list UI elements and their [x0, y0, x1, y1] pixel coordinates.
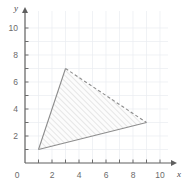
y-tick-label-2: 2: [13, 131, 18, 141]
y-tick-label-8: 8: [13, 50, 18, 60]
coordinate-plane-figure: 2 4 6 8 10 2 4 6 8 10 0 x y: [0, 0, 190, 190]
y-tick-label-6: 6: [13, 77, 18, 87]
y-axis-tick-labels: 2 4 6 8 10: [9, 23, 19, 141]
plot-svg: 2 4 6 8 10 2 4 6 8 10 0 x y: [0, 0, 190, 190]
x-tick-label-6: 6: [104, 170, 109, 180]
y-tick-label-10: 10: [9, 23, 19, 33]
x-axis-label: x: [176, 169, 181, 179]
y-axis-label: y: [13, 3, 18, 13]
x-tick-label-8: 8: [131, 170, 136, 180]
x-axis-tick-labels: 2 4 6 8 10: [50, 170, 165, 180]
x-tick-label-4: 4: [77, 170, 82, 180]
origin-label: 0: [15, 170, 20, 180]
x-tick-label-2: 2: [50, 170, 55, 180]
x-tick-label-10: 10: [155, 170, 165, 180]
y-tick-label-4: 4: [13, 104, 18, 114]
